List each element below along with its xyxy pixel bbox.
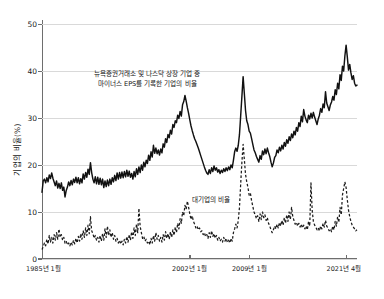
y-tick-label: 30 [27, 114, 37, 123]
series-solid-annotation-line1: 뉴욕증권거래소 및 나스닥 상장 기업 중 [94, 70, 200, 80]
x-tick-label: 2002년 1월 [172, 263, 207, 273]
y-axis-title: 기업의 비율(%) [8, 0, 24, 299]
series-solid-annotation-line2: 마이너스 EPS를 기록한 기업의 비율 [94, 80, 200, 90]
plot-area: 01020304050 1985년 1월2002년 1월2009년 1월2021… [42, 24, 357, 259]
y-tick-label: 20 [27, 161, 37, 170]
y-tick-label: 40 [27, 67, 37, 76]
series-solid-annotation: 뉴욕증권거래소 및 나스닥 상장 기업 중 마이너스 EPS를 기록한 기업의 … [94, 70, 200, 89]
y-tick-label: 10 [27, 208, 37, 217]
y-axis-title-text: 기업의 비율(%) [11, 123, 22, 175]
series-dashed-annotation: 대기업의 비율 [192, 196, 230, 206]
y-tick-label: 50 [27, 20, 37, 29]
x-tick-label: 2021년 4월 [327, 263, 362, 273]
x-tick-label: 1985년 1월 [26, 263, 61, 273]
y-tick-mark [38, 259, 42, 260]
x-tick-label: 2009년 1월 [232, 263, 267, 273]
series-dashed-annotation-line1: 대기업의 비율 [192, 196, 230, 206]
chart-figure: 기업의 비율(%) 01020304050 1985년 1월2002년 1월20… [0, 0, 384, 299]
series-lines [42, 24, 357, 259]
series-solid-line [42, 45, 357, 197]
gridline [42, 259, 357, 260]
